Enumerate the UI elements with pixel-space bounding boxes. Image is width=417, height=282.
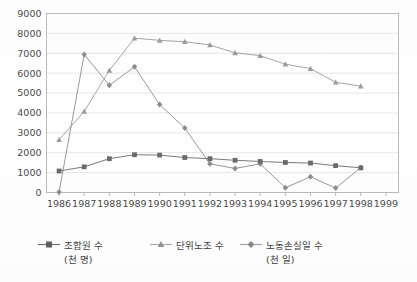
data-point-marker bbox=[182, 155, 187, 160]
x-axis-tick-label: 1987 bbox=[72, 198, 96, 209]
legend-marker-diamond-icon bbox=[240, 239, 262, 252]
y-axis-tick-label: 4000 bbox=[17, 107, 41, 118]
x-axis-tick-label: 1992 bbox=[198, 198, 222, 209]
x-axis-tick-label: 1997 bbox=[324, 198, 348, 209]
data-point-marker bbox=[157, 153, 162, 158]
data-point-marker bbox=[333, 79, 339, 84]
y-axis-tick-label: 3000 bbox=[17, 127, 41, 138]
data-point-marker bbox=[308, 161, 313, 166]
x-axis-tick-label: 1989 bbox=[122, 198, 146, 209]
y-axis-tick-label: 7000 bbox=[17, 48, 41, 59]
data-point-marker bbox=[81, 108, 87, 113]
series-2 bbox=[56, 35, 363, 142]
data-point-marker bbox=[283, 160, 288, 165]
y-axis-tick-label: 1000 bbox=[17, 167, 41, 178]
x-axis-tick-label: 1990 bbox=[148, 198, 172, 209]
legend-entry-union-members: 조합원 수 (천 명) bbox=[38, 238, 103, 266]
data-point-marker bbox=[57, 169, 62, 174]
y-axis-tick-label: 5000 bbox=[17, 87, 41, 98]
x-axis-tick-label: 1986 bbox=[47, 198, 71, 209]
legend-sublabel-lost-workdays: (천 일) bbox=[266, 253, 323, 266]
legend-marker-square-icon bbox=[38, 239, 60, 252]
x-axis-tick-label: 1993 bbox=[223, 198, 247, 209]
x-axis-tick-label: 1991 bbox=[173, 198, 197, 209]
data-point-marker bbox=[358, 165, 363, 170]
legend-sublabel-union-members: (천 명) bbox=[64, 253, 103, 266]
x-axis-tick-label: 1994 bbox=[248, 198, 272, 209]
data-point-marker bbox=[107, 156, 112, 161]
data-point-marker bbox=[232, 165, 237, 171]
x-axis-tick-label: 1996 bbox=[298, 198, 322, 209]
y-axis-tick-label: 9000 bbox=[17, 8, 41, 19]
data-point-marker bbox=[132, 35, 138, 40]
data-point-marker bbox=[132, 152, 137, 157]
x-axis-tick-label: 1995 bbox=[273, 198, 297, 209]
legend-entry-unit-unions: 단위노조 수 bbox=[150, 238, 224, 253]
data-point-marker bbox=[208, 156, 213, 161]
x-axis-tick-label: 1988 bbox=[97, 198, 121, 209]
legend-label-lost-workdays: 노동손실일 수 bbox=[266, 240, 323, 251]
data-point-marker bbox=[82, 164, 87, 169]
legend-entry-lost-workdays: 노동손실일 수 (천 일) bbox=[240, 238, 323, 266]
legend-label-unit-unions: 단위노조 수 bbox=[176, 240, 224, 251]
data-point-marker bbox=[56, 189, 61, 195]
chart-legend: 조합원 수 (천 명) 단위노조 수 노동손실일 수 (천 일) bbox=[34, 236, 364, 280]
y-axis-tick-label: 6000 bbox=[17, 68, 41, 79]
y-axis-tick-label: 8000 bbox=[17, 28, 41, 39]
y-axis-tick-label: 0 bbox=[35, 187, 41, 198]
x-axis-tick-label: 1998 bbox=[349, 198, 373, 209]
data-point-marker bbox=[258, 159, 263, 164]
x-axis-tick-label: 1999 bbox=[374, 198, 398, 209]
data-point-marker bbox=[308, 174, 313, 180]
legend-label-union-members: 조합원 수 bbox=[64, 240, 103, 251]
chart-figure: 0100020003000400050006000700080009000198… bbox=[0, 0, 417, 282]
data-point-marker bbox=[333, 163, 338, 168]
legend-marker-triangle-icon bbox=[150, 239, 172, 252]
data-point-marker bbox=[233, 158, 238, 163]
y-axis-tick-label: 2000 bbox=[17, 147, 41, 158]
